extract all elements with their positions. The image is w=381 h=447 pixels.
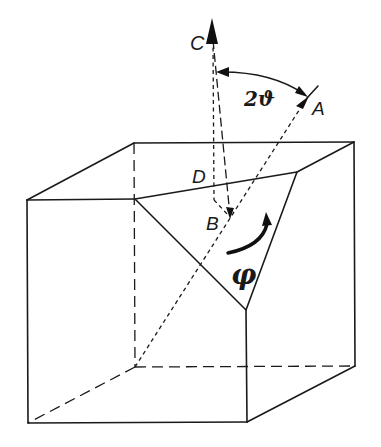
top-left-edge — [27, 143, 134, 200]
top-right-edge — [297, 142, 354, 172]
front-bottom-edge — [28, 422, 247, 423]
arc-left-arrowhead — [216, 67, 229, 77]
front-top-edge — [27, 199, 135, 200]
hidden-bottom-back-edge — [135, 366, 355, 367]
label-b: B — [206, 213, 219, 234]
front-left-edge — [27, 200, 28, 423]
cube-diagram: C A D B 2ϑ φ — [0, 0, 381, 447]
a-tick-mark — [307, 86, 318, 98]
label-a: A — [311, 98, 325, 119]
c-to-b-line — [213, 40, 230, 216]
top-back-edge — [134, 142, 354, 143]
label-d: D — [192, 166, 206, 187]
back-right-edge — [354, 142, 355, 366]
arc-right-arrowhead — [295, 86, 308, 97]
c-to-d-line — [213, 40, 214, 200]
bottom-right-edge — [247, 366, 355, 422]
cube-visible-edges — [27, 142, 355, 423]
cut-triangle-face — [135, 172, 297, 310]
phi-rotation-arc — [228, 224, 267, 253]
hidden-bottom-left-edge — [28, 367, 135, 423]
label-c: C — [190, 32, 205, 54]
phi-arrowhead — [262, 212, 272, 226]
label-two-theta: 2ϑ — [243, 87, 275, 111]
c-arrowhead — [206, 18, 218, 44]
label-phi: φ — [231, 258, 257, 291]
hidden-vertical-edge — [134, 143, 135, 367]
